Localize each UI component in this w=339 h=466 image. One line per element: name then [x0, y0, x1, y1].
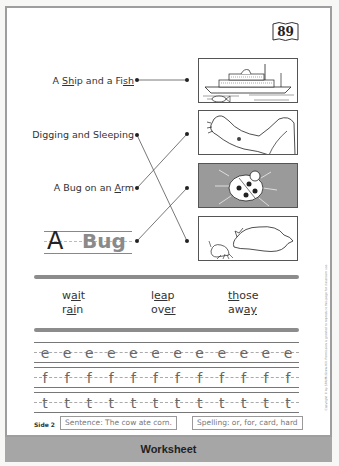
trace-letter-e: e	[281, 342, 295, 364]
trace-letter-t: t	[171, 392, 185, 414]
dot-left-arm[interactable]	[135, 186, 139, 190]
dot-left-ship[interactable]	[135, 78, 139, 82]
trace-letter-e: e	[148, 342, 162, 364]
trace-letter-f: f	[104, 367, 118, 389]
trace-letter-f: f	[126, 367, 140, 389]
trace-letter-f: f	[82, 367, 96, 389]
trace-letter-e: e	[104, 342, 118, 364]
trace-letter-t: t	[126, 392, 140, 414]
trace-letter-e: e	[126, 342, 140, 364]
word-those: those	[228, 289, 259, 303]
trace-letter-t: t	[104, 392, 118, 414]
handwriting-row-e: eeeeeeeeeeee	[34, 342, 299, 364]
word-column-2: leap over	[151, 289, 176, 317]
word-over: over	[151, 303, 176, 317]
word-column-1: wait rain	[62, 289, 85, 317]
word-column-3: those away	[228, 289, 259, 317]
trace-letter-f: f	[281, 367, 295, 389]
side-label: Side 2	[34, 421, 55, 428]
dot-right-ladybug[interactable]	[185, 186, 189, 190]
trace-letter-t: t	[237, 392, 251, 414]
trace-letter-t: t	[82, 392, 96, 414]
trace-letter-f: f	[171, 367, 185, 389]
trace-letter-t: t	[259, 392, 273, 414]
dot-right-arm[interactable]	[185, 132, 189, 136]
trace-letter-e: e	[215, 342, 229, 364]
trace-letter-t: t	[281, 392, 295, 414]
banner-title: Worksheet	[5, 443, 332, 455]
trace-letter-t: t	[193, 392, 207, 414]
word-away: away	[228, 303, 259, 317]
trace-letter-f: f	[60, 367, 74, 389]
dot-left-digging[interactable]	[135, 133, 139, 137]
dot-right-ship[interactable]	[185, 78, 189, 82]
sentence-box: Sentence: The cow ate corn.	[60, 416, 177, 430]
trace-letter-f: f	[193, 367, 207, 389]
handwriting-practice: eeeeeeeeeeee ffffffffffff tttttttttttt	[34, 342, 299, 414]
trace-letter-f: f	[148, 367, 162, 389]
word-wait: wait	[62, 289, 85, 303]
worksheet-banner: Worksheet	[5, 437, 332, 462]
handwriting-row-t: tttttttttttt	[34, 392, 299, 414]
trace-letter-e: e	[237, 342, 251, 364]
trace-letter-e: e	[38, 342, 52, 364]
trace-letter-f: f	[38, 367, 52, 389]
dot-left-bug[interactable]	[135, 239, 139, 243]
footer-info: Side 2 Sentence: The cow ate corn. Spell…	[34, 416, 299, 434]
spelling-box: Spelling: or, for, card, hard	[192, 416, 303, 430]
trace-letter-t: t	[215, 392, 229, 414]
trace-letter-t: t	[60, 392, 74, 414]
trace-letter-t: t	[38, 392, 52, 414]
trace-letter-e: e	[60, 342, 74, 364]
section-divider-top	[34, 275, 299, 279]
trace-letter-f: f	[215, 367, 229, 389]
trace-letter-e: e	[82, 342, 96, 364]
trace-letter-e: e	[259, 342, 273, 364]
dot-right-digging[interactable]	[185, 239, 189, 243]
trace-letter-e: e	[171, 342, 185, 364]
word-leap: leap	[151, 289, 176, 303]
trace-letter-e: e	[193, 342, 207, 364]
trace-letter-f: f	[259, 367, 273, 389]
section-divider-bottom	[34, 328, 299, 332]
copyright-notice: Copyright © by SRA/McGraw-Hill. Permissi…	[318, 250, 328, 430]
trace-letter-f: f	[237, 367, 251, 389]
trace-letter-t: t	[148, 392, 162, 414]
word-rain: rain	[62, 303, 85, 317]
handwriting-row-f: ffffffffffff	[34, 367, 299, 389]
